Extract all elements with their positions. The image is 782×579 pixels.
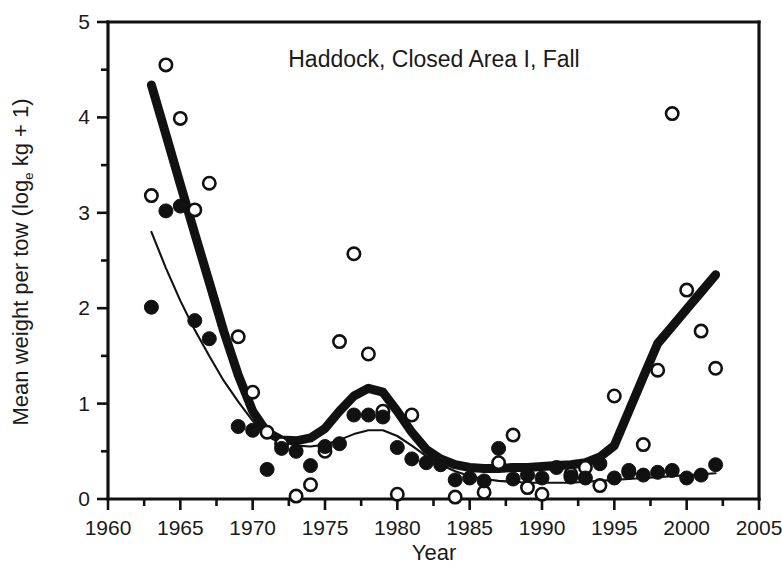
closed-circle-marker	[304, 459, 318, 473]
closed-circle-marker	[463, 471, 477, 485]
open-circle-marker	[449, 491, 461, 503]
closed-circle-marker	[709, 458, 723, 472]
x-tick-label: 1970	[229, 516, 276, 539]
open-circle-marker	[290, 490, 302, 502]
y-label-main: Mean weight per tow (log	[8, 180, 33, 426]
y-tick-label: 5	[78, 10, 90, 33]
chart-figure: 012345 196019651970197519801985199019952…	[0, 0, 782, 579]
y-tick-label: 2	[78, 296, 90, 319]
open-circle-marker	[232, 331, 244, 343]
open-circle-marker	[709, 362, 721, 374]
y-tick-label: 4	[78, 105, 90, 128]
closed-circle-marker	[477, 474, 491, 488]
closed-circle-marker	[159, 204, 173, 218]
closed-circle-marker	[636, 468, 650, 482]
open-circle-marker	[145, 189, 157, 201]
open-circle-marker	[247, 386, 259, 398]
closed-circle-marker	[202, 332, 216, 346]
closed-circle-marker	[492, 441, 506, 455]
closed-circle-marker	[564, 470, 578, 484]
closed-circle-marker	[607, 471, 621, 485]
closed-circle-marker	[188, 314, 202, 328]
closed-circle-marker	[578, 471, 592, 485]
open-circle-marker	[406, 409, 418, 421]
closed-circle-marker	[347, 408, 361, 422]
closed-circle-marker	[318, 440, 332, 454]
closed-circle-marker	[680, 471, 694, 485]
open-circle-marker	[261, 426, 273, 438]
closed-circle-marker	[593, 457, 607, 471]
scatter-plot: 012345 196019651970197519801985199019952…	[0, 0, 782, 579]
open-circle-marker	[608, 390, 620, 402]
closed-circle-marker	[333, 437, 347, 451]
open-circle-marker	[333, 335, 345, 347]
closed-circle-marker	[405, 452, 419, 466]
x-tick-label: 2000	[663, 516, 710, 539]
closed-circle-marker	[231, 420, 245, 434]
x-tick-label: 1995	[591, 516, 638, 539]
y-tick-label: 0	[78, 487, 90, 510]
x-tick-label: 1985	[446, 516, 493, 539]
closed-circle-marker	[622, 463, 636, 477]
x-tick-label: 1990	[519, 516, 566, 539]
x-tick-label: 1960	[85, 516, 132, 539]
y-tick-label: 3	[78, 201, 90, 224]
x-tick-label: 1965	[157, 516, 204, 539]
y-label-subscript: e	[21, 172, 36, 179]
closed-circle-marker	[694, 468, 708, 482]
open-circle-marker	[304, 479, 316, 491]
open-circle-marker	[681, 284, 693, 296]
open-circle-marker	[637, 438, 649, 450]
open-circle-marker	[203, 177, 215, 189]
y-label-tail: kg + 1)	[8, 98, 33, 172]
chart-title: Haddock, Closed Area I, Fall	[288, 46, 579, 72]
data-markers-layer	[144, 59, 722, 504]
closed-circle-marker	[361, 408, 375, 422]
x-tick-label: 1980	[374, 516, 421, 539]
closed-circle-marker	[289, 444, 303, 458]
closed-circle-marker	[246, 423, 260, 437]
open-circle-marker	[695, 325, 707, 337]
closed-circle-marker	[665, 463, 679, 477]
open-circle-marker	[507, 429, 519, 441]
open-circle-marker	[521, 481, 533, 493]
closed-circle-marker	[376, 410, 390, 424]
closed-circle-marker	[550, 461, 564, 475]
open-circle-marker	[652, 364, 664, 376]
x-tick-label: 1975	[302, 516, 349, 539]
open-circle-marker	[348, 248, 360, 260]
closed-circle-marker	[651, 465, 665, 479]
closed-circle-marker	[390, 441, 404, 455]
thick-trend	[151, 85, 715, 469]
closed-circle-marker	[506, 472, 520, 486]
y-axis-title: Mean weight per tow (loge kg + 1)	[8, 98, 36, 425]
closed-circle-marker	[448, 473, 462, 487]
closed-circle-marker	[144, 300, 158, 314]
x-axis-ticks: 1960196519701975198019851990199520002005	[85, 499, 782, 539]
closed-circle-marker	[275, 441, 289, 455]
open-circle-marker	[391, 488, 403, 500]
open-circle-marker	[536, 488, 548, 500]
open-circle-marker	[666, 107, 678, 119]
x-tick-label: 2005	[736, 516, 782, 539]
y-tick-label: 1	[78, 392, 90, 415]
closed-circle-marker	[173, 199, 187, 213]
open-circle-marker	[174, 112, 186, 124]
x-axis-title: Year	[412, 540, 456, 565]
closed-circle-marker	[521, 468, 535, 482]
closed-circle-marker	[535, 471, 549, 485]
y-axis-ticks: 012345	[78, 10, 108, 510]
closed-circle-marker	[434, 458, 448, 472]
open-circle-marker	[362, 348, 374, 360]
open-circle-marker	[189, 204, 201, 216]
open-circle-marker	[160, 59, 172, 71]
closed-circle-marker	[419, 456, 433, 470]
closed-circle-marker	[260, 462, 274, 476]
open-circle-marker	[594, 479, 606, 491]
open-circle-marker	[492, 457, 504, 469]
